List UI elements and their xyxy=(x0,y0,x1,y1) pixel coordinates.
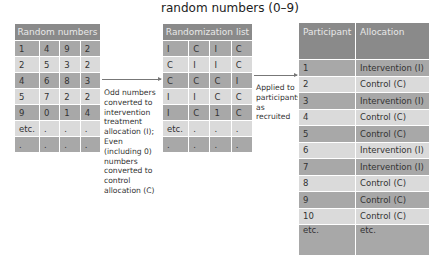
randomization-list-table: Randomization list ICIC CIIC CCCI IICC I… xyxy=(162,23,253,153)
cell: . xyxy=(15,137,40,153)
cell: . xyxy=(40,137,60,153)
table-row: 8Control (C) xyxy=(299,175,430,192)
applied-note: Applied to participants as recruited xyxy=(256,83,300,122)
cell: 4 xyxy=(80,105,100,121)
cell: . xyxy=(210,121,231,137)
cell: C xyxy=(231,105,252,121)
cell: 1 xyxy=(60,105,80,121)
table-row: IC1C xyxy=(163,105,253,121)
table-row: IICC xyxy=(163,89,253,105)
table-row: 2532 xyxy=(15,57,101,73)
table-row: 3Intervention (I) xyxy=(299,93,430,110)
cell: . xyxy=(163,137,189,153)
cell: . xyxy=(189,121,210,137)
cell: . xyxy=(231,137,252,153)
arrow-to-randomization-list xyxy=(102,79,161,80)
cell: 1 xyxy=(15,41,40,57)
cell: 9 xyxy=(15,105,40,121)
table-row: ICIC xyxy=(163,41,253,57)
cell: 0 xyxy=(40,105,60,121)
cell: 7 xyxy=(40,89,60,105)
cell: 2 xyxy=(80,41,100,57)
table-row: CIIC xyxy=(163,57,253,73)
cell: C xyxy=(210,89,231,105)
allocation-cell: Intervention (I) xyxy=(356,142,430,159)
table-row: 2Control (C) xyxy=(299,76,430,93)
allocation-cell: Control (C) xyxy=(356,175,430,192)
cell: I xyxy=(231,73,252,89)
cell: 6 xyxy=(40,73,60,89)
table-row: CCCI xyxy=(163,73,253,89)
cell: . xyxy=(60,137,80,153)
cell: 1 xyxy=(210,105,231,121)
cell: C xyxy=(210,73,231,89)
diagram-title: random numbers (0–9) xyxy=(150,0,310,16)
cell: 2 xyxy=(15,57,40,73)
cell: C xyxy=(163,57,189,73)
table-row: 7Intervention (I) xyxy=(299,159,430,176)
table-row: 5Control (C) xyxy=(299,126,430,143)
table-row: 6Intervention (I) xyxy=(299,142,430,159)
allocation-table: Participant Allocation 1Intervention (I)… xyxy=(298,22,430,256)
participant-cell: 3 xyxy=(299,93,356,110)
allocation-cell: Control (C) xyxy=(356,208,430,225)
cell: 9 xyxy=(60,41,80,57)
participant-cell: etc. xyxy=(299,225,356,256)
allocation-cell: Control (C) xyxy=(356,192,430,209)
allocation-cell: Control (C) xyxy=(356,109,430,126)
cell: 8 xyxy=(60,73,80,89)
cell: C xyxy=(231,41,252,57)
cell: I xyxy=(210,57,231,73)
participant-cell: 9 xyxy=(299,192,356,209)
cell: . xyxy=(80,121,100,137)
table-row: 4Control (C) xyxy=(299,109,430,126)
cell: I xyxy=(189,89,210,105)
cell: C xyxy=(189,41,210,57)
random-numbers-header: Random numbers xyxy=(15,24,101,41)
cell: . xyxy=(40,121,60,137)
allocation-cell: Intervention (I) xyxy=(356,60,430,77)
cell: . xyxy=(60,121,80,137)
participant-cell: 4 xyxy=(299,109,356,126)
cell: . xyxy=(80,137,100,153)
participant-cell: 10 xyxy=(299,208,356,225)
allocation-cell: Control (C) xyxy=(356,76,430,93)
participant-cell: 2 xyxy=(299,76,356,93)
cell: . xyxy=(210,137,231,153)
cell: 5 xyxy=(40,57,60,73)
participant-cell: 5 xyxy=(299,126,356,143)
cell: 3 xyxy=(60,57,80,73)
cell: 5 xyxy=(15,89,40,105)
cell: C xyxy=(163,73,189,89)
cell: C xyxy=(231,89,252,105)
participant-column-header: Participant xyxy=(299,23,356,60)
table-row: etc.... xyxy=(163,121,253,137)
allocation-cell: etc. xyxy=(356,225,430,256)
arrow-to-allocation-table xyxy=(254,75,297,76)
cell: C xyxy=(189,73,210,89)
table-row: etc.etc. xyxy=(299,225,430,256)
participant-cell: 8 xyxy=(299,175,356,192)
table-row: 1492 xyxy=(15,41,101,57)
table-row: 4683 xyxy=(15,73,101,89)
participant-cell: 6 xyxy=(299,142,356,159)
cell: C xyxy=(189,105,210,121)
table-row: 5722 xyxy=(15,89,101,105)
cell: etc. xyxy=(163,121,189,137)
allocation-cell: Control (C) xyxy=(356,126,430,143)
cell: etc. xyxy=(15,121,40,137)
table-row: 9Control (C) xyxy=(299,192,430,209)
conversion-note: Odd numbers converted to intervention tr… xyxy=(104,88,162,196)
allocation-column-header: Allocation xyxy=(356,23,430,60)
cell: I xyxy=(163,105,189,121)
table-row: 1Intervention (I) xyxy=(299,60,430,77)
table-row: 10Control (C) xyxy=(299,208,430,225)
cell: 4 xyxy=(40,41,60,57)
participant-cell: 7 xyxy=(299,159,356,176)
cell: 3 xyxy=(80,73,100,89)
cell: 2 xyxy=(80,57,100,73)
table-row: etc.... xyxy=(15,121,101,137)
cell: I xyxy=(163,89,189,105)
participant-cell: 1 xyxy=(299,60,356,77)
allocation-cell: Intervention (I) xyxy=(356,159,430,176)
